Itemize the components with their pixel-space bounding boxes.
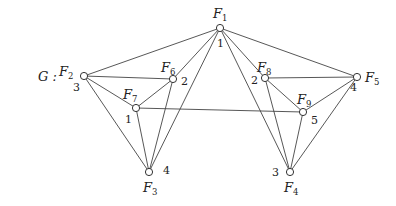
node-F1: F11 [212, 6, 227, 50]
vertex-number-F4: 3 [272, 166, 279, 179]
node-F2: F23 [58, 64, 88, 94]
vertex-F5 [353, 73, 360, 80]
edge-F7-F9 [136, 108, 303, 112]
vertex-number-F7: 1 [125, 113, 132, 126]
vertex-number-F9: 5 [311, 114, 318, 127]
graph-diagram: G : F11F23F34F43F54F62F71F82F95 [0, 0, 396, 206]
vertex-label-F1: F1 [212, 6, 227, 23]
edge-F2-F6 [84, 76, 173, 79]
vertex-label-F9: F9 [296, 92, 311, 109]
vertex-number-F5: 4 [350, 81, 357, 94]
edge-F6-F3 [149, 79, 173, 172]
node-F7: F71 [122, 87, 140, 126]
node-F4: F43 [272, 166, 298, 197]
vertex-F3 [145, 168, 152, 175]
edge-F8-F4 [265, 78, 290, 172]
vertex-number-F2: 3 [73, 81, 80, 94]
vertex-label-F5: F5 [364, 70, 379, 87]
vertex-number-F1: 1 [217, 37, 224, 50]
nodes: F11F23F34F43F54F62F71F82F95 [58, 6, 379, 197]
node-F3: F34 [142, 164, 170, 197]
node-F8: F82 [251, 60, 271, 87]
vertex-number-F3: 4 [163, 164, 170, 177]
vertex-F7 [132, 104, 139, 111]
vertex-label-F3: F3 [142, 180, 157, 197]
vertex-label-F8: F8 [256, 60, 271, 77]
edge-F1-F6 [173, 28, 220, 79]
node-F6: F62 [160, 60, 188, 88]
vertex-F1 [216, 24, 223, 31]
vertex-label-F4: F4 [283, 180, 298, 197]
vertex-label-F7: F7 [122, 87, 137, 104]
vertex-number-F8: 2 [251, 74, 258, 87]
vertex-label-F2: F2 [58, 64, 73, 81]
vertex-label-F6: F6 [160, 60, 175, 77]
vertex-F4 [286, 168, 293, 175]
vertex-F2 [80, 72, 87, 79]
vertex-number-F6: 2 [181, 75, 188, 88]
node-F5: F54 [350, 70, 379, 94]
edge-F6-F7 [136, 79, 173, 108]
graph-label: G : [38, 69, 57, 84]
vertex-F9 [299, 108, 306, 115]
edge-F8-F5 [265, 77, 357, 78]
